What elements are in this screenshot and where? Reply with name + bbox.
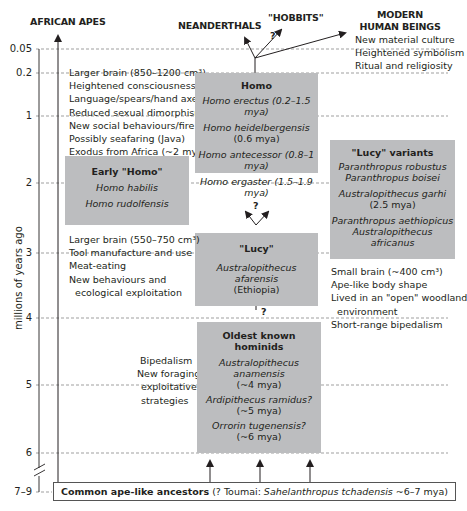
species: Homo ergaster (1.5–1.9 mya) bbox=[195, 176, 318, 198]
species: Orrorin tugenensis? bbox=[197, 420, 321, 431]
species-location: (Ethiopia) bbox=[195, 284, 318, 295]
box-title: Early "Homo" bbox=[65, 166, 189, 177]
box-title: "Lucy" bbox=[195, 243, 318, 254]
tick-label: 7–9 bbox=[2, 486, 32, 497]
species-date: (2.5 mya) bbox=[330, 199, 455, 210]
early-homo-traits: Larger brain (550–750 cm³) Tool manufact… bbox=[69, 233, 200, 299]
note-line: strategies bbox=[137, 394, 200, 407]
note-line: Meat-eating bbox=[69, 259, 200, 272]
note-line: Reduced sexual dimorphism bbox=[69, 106, 214, 119]
species: Homo rudolfensis bbox=[65, 198, 189, 209]
box-title: "Lucy" variants bbox=[330, 147, 455, 158]
species: Paranthropus boisei bbox=[330, 172, 455, 183]
box-lucy: "Lucy" Australopithecus afarensis (Ethio… bbox=[195, 233, 318, 306]
header-modern-line1: MODERN bbox=[345, 9, 455, 21]
note-line: Heightened consciousness bbox=[69, 79, 214, 92]
note-line: New material culture bbox=[355, 33, 464, 46]
note-line: Small brain (~400 cm³) bbox=[331, 265, 467, 278]
oldest-traits: Bipedalism New foraging exploitative str… bbox=[137, 354, 200, 407]
species: Homo erectus (0.2–1.5 mya) bbox=[195, 95, 318, 117]
header-modern-humans: MODERN HUMAN BEINGS bbox=[345, 9, 455, 33]
note-line: Short-range bipedalism bbox=[331, 318, 467, 331]
note-line: Larger brain (550–750 cm³) bbox=[69, 233, 200, 246]
species-date: (~5 mya) bbox=[197, 405, 321, 416]
box-title: Oldest known hominids bbox=[197, 330, 321, 352]
note-line: Heightened symbolism bbox=[355, 46, 464, 59]
header-hobbits: "HOBBITS" bbox=[268, 12, 323, 24]
note-line: New foraging bbox=[137, 367, 200, 380]
species: Australopithecus africanus bbox=[330, 226, 455, 248]
tick-label: 2 bbox=[2, 177, 32, 188]
species: Australopithecus garhi bbox=[330, 188, 455, 199]
species: Paranthropus robustus bbox=[330, 161, 455, 172]
box-oldest-hominids: Oldest known hominids Australopithecus a… bbox=[197, 322, 321, 453]
lucy-origin-question: ? bbox=[261, 306, 266, 318]
species: Homo heidelbergensis bbox=[195, 122, 318, 133]
tick-label: 5 bbox=[2, 379, 32, 390]
note-line: Ritual and religiosity bbox=[355, 59, 464, 72]
hobbits-question: ? bbox=[270, 30, 275, 42]
note-line: Bipedalism bbox=[137, 354, 200, 367]
box-title: Homo bbox=[195, 80, 318, 91]
note-line: Ape-like body shape bbox=[331, 278, 467, 291]
ancestors-title: Common ape-like ancestors bbox=[61, 486, 209, 497]
species: Australopithecus anamensis bbox=[197, 357, 321, 379]
note-line: New social behaviours/fire use bbox=[69, 119, 214, 132]
box-homo: Homo Homo erectus (0.2–1.5 mya) Homo hei… bbox=[195, 73, 318, 173]
note-line: ecological exploitation bbox=[69, 286, 200, 299]
species-date: (~6 mya) bbox=[197, 431, 321, 442]
box-early-homo: Early "Homo" Homo habilis Homo rudolfens… bbox=[65, 156, 189, 225]
header-neanderthals: NEANDERTHALS bbox=[178, 20, 261, 32]
species-date: (0.6 mya) bbox=[195, 133, 318, 144]
ancestors-species: Sahelanthropus tchadensis bbox=[264, 486, 393, 497]
homo-traits: Larger brain (850–1200 cm³) Heightened c… bbox=[69, 66, 214, 158]
header-modern-line2: HUMAN BEINGS bbox=[345, 21, 455, 33]
tick-label: 1 bbox=[2, 110, 32, 121]
modern-notes: New material culture Heightened symbolis… bbox=[355, 33, 464, 73]
species: Homo antecessor (0.8–1 mya) bbox=[195, 149, 318, 171]
ancestors-text: (? Toumai: bbox=[209, 486, 264, 497]
note-line: Lived in an "open" woodland bbox=[331, 291, 467, 304]
note-line: environment bbox=[331, 305, 467, 318]
note-line: Language/spears/hand axes bbox=[69, 92, 214, 105]
tick-label: 6 bbox=[2, 447, 32, 458]
homo-origin-question: ? bbox=[253, 200, 258, 212]
species: Australopithecus afarensis bbox=[195, 262, 318, 284]
note-line: Tool manufacture and use bbox=[69, 246, 200, 259]
note-line: exploitative bbox=[137, 380, 200, 393]
species: Ardipithecus ramidus? bbox=[197, 394, 321, 405]
lucy-traits: Small brain (~400 cm³) Ape-like body sha… bbox=[331, 265, 467, 331]
box-common-ancestors: Common ape-like ancestors (? Toumai: Sah… bbox=[53, 482, 456, 501]
note-line: New behaviours and bbox=[69, 273, 200, 286]
species: Homo habilis bbox=[65, 182, 189, 193]
header-african-apes: AFRICAN APES bbox=[30, 16, 106, 28]
box-lucy-variants: "Lucy" variants Paranthropus robustus Pa… bbox=[330, 140, 455, 259]
ancestors-date: ~6–7 mya) bbox=[393, 486, 448, 497]
tick-label: 0.05 bbox=[2, 43, 32, 54]
note-line: Larger brain (850–1200 cm³) bbox=[69, 66, 214, 79]
y-axis-label: millions of years ago bbox=[13, 226, 24, 330]
species: Paranthropus aethiopicus bbox=[330, 215, 455, 226]
note-line: Possibly seafaring (Java) bbox=[69, 132, 214, 145]
tick-label: 0.2 bbox=[2, 67, 32, 78]
species-date: (~4 mya) bbox=[197, 379, 321, 390]
